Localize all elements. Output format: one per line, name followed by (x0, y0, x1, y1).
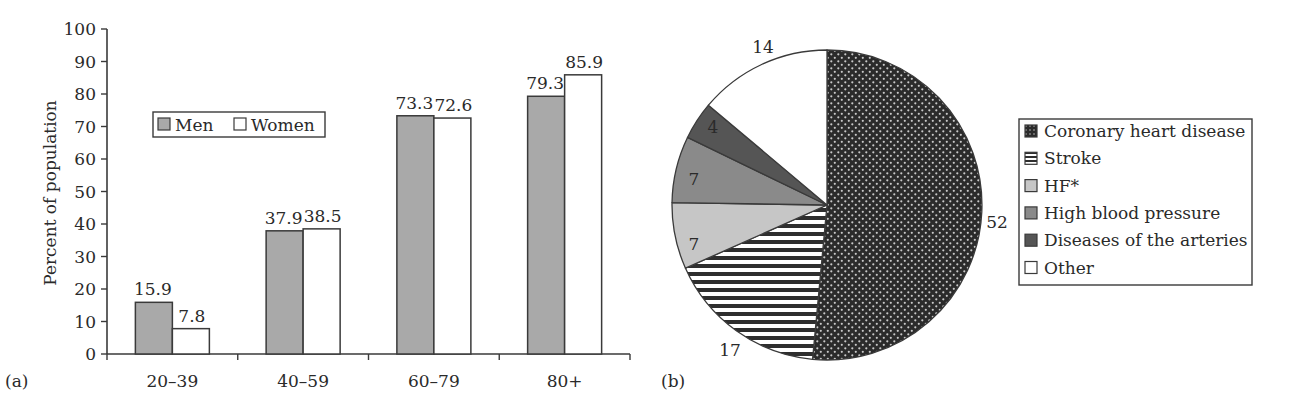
bar-value-label: 37.9 (265, 208, 303, 228)
x-tick-label: 20–39 (146, 371, 198, 391)
legend-label-diseases-of-the-arteries: Diseases of the arteries (1044, 230, 1248, 250)
legend-label-high-blood-pressure: High blood pressure (1044, 203, 1220, 223)
bar-men (135, 302, 172, 354)
bar-value-label: 72.6 (434, 95, 472, 115)
y-tick-label: 70 (74, 117, 96, 137)
legend-swatch-stroke (1025, 152, 1037, 164)
y-tick-label: 20 (74, 279, 96, 299)
bar-men (397, 116, 434, 354)
y-tick-label: 40 (74, 214, 96, 234)
pie-chart-panel: 521777414 Coronary heart diseaseStrokeHF… (661, 37, 1252, 391)
figure: Percent of population 010203040506070809… (0, 0, 1292, 412)
legend-label-coronary-heart-disease: Coronary heart disease (1044, 121, 1245, 141)
pie-value-label: 7 (689, 234, 700, 254)
y-tick-label: 100 (64, 19, 96, 39)
y-axis: 0102030405060708090100 (64, 19, 107, 364)
y-axis-title: Percent of population (40, 100, 60, 286)
bar-men (266, 231, 303, 354)
y-tick-label: 10 (74, 312, 96, 332)
y-tick-label: 0 (85, 344, 96, 364)
pie-value-label: 17 (719, 340, 741, 360)
legend-swatch-men (158, 118, 170, 130)
bar-women (565, 75, 602, 354)
y-tick-label: 90 (74, 52, 96, 72)
panel-label-b: (b) (661, 371, 685, 391)
legend-swatch-coronary-heart-disease (1025, 125, 1037, 137)
bar-women (434, 118, 471, 354)
pie-value-label: 7 (689, 169, 700, 189)
legend-label-hf: HF* (1044, 176, 1080, 196)
bar-value-label: 79.3 (526, 73, 564, 93)
x-tick-label: 40–59 (277, 371, 329, 391)
x-tick-label: 80+ (547, 371, 583, 391)
legend-swatch-hf (1025, 180, 1037, 192)
legend-label-other: Other (1044, 258, 1095, 278)
pie-value-label: 4 (708, 117, 719, 137)
legend-swatch-diseases-of-the-arteries (1025, 234, 1037, 246)
bar-value-label: 7.8 (178, 306, 205, 326)
bar-series: 15.97.837.938.573.372.679.385.9 (134, 52, 603, 354)
bar-value-label: 15.9 (134, 279, 172, 299)
pie (672, 50, 982, 360)
bar-chart-panel: Percent of population 010203040506070809… (5, 19, 630, 391)
y-tick-label: 80 (74, 84, 96, 104)
pie-value-label: 52 (986, 212, 1008, 232)
bar-legend: MenWomen (153, 112, 325, 137)
legend-label-men: Men (175, 115, 213, 135)
y-tick-label: 60 (74, 149, 96, 169)
legend-swatch-women (234, 118, 246, 130)
pie-value-label: 14 (752, 37, 774, 57)
pie-slice-coronary-heart-disease (813, 50, 982, 360)
legend-swatch-other (1025, 262, 1037, 274)
y-tick-label: 50 (74, 182, 96, 202)
bar-men (528, 96, 565, 354)
bar-value-label: 73.3 (395, 93, 433, 113)
panel-label-a: (a) (5, 371, 28, 391)
legend-label-women: Women (251, 115, 315, 135)
legend-label-stroke: Stroke (1044, 148, 1101, 168)
y-tick-label: 30 (74, 247, 96, 267)
bar-value-label: 85.9 (565, 52, 603, 72)
bar-women (303, 229, 340, 354)
bar-women (172, 329, 209, 354)
bar-value-label: 38.5 (304, 206, 342, 226)
legend-swatch-high-blood-pressure (1025, 207, 1037, 219)
x-axis: 20–3940–5960–7980+ (107, 354, 630, 391)
x-tick-label: 60–79 (408, 371, 460, 391)
pie-legend: Coronary heart diseaseStrokeHF*High bloo… (1019, 119, 1252, 285)
